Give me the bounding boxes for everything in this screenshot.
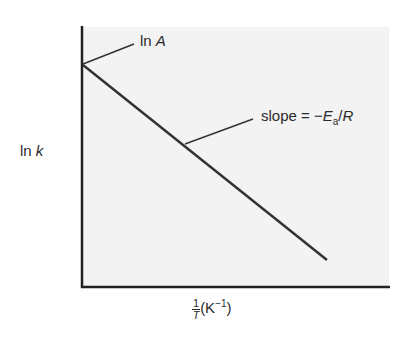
x-axis-unit: (K [200, 299, 215, 316]
intercept-label-text: ln [140, 32, 156, 49]
slope-label-var: E [323, 107, 333, 124]
arrhenius-plot [0, 0, 411, 345]
x-axis-exponent: −1 [215, 298, 226, 309]
slope-label-prefix: slope = − [261, 107, 323, 124]
x-axis-unit-close: ) [227, 299, 232, 316]
intercept-label: ln A [140, 32, 166, 49]
y-axis-label-text: ln [20, 142, 36, 159]
intercept-label-var: A [156, 32, 166, 49]
y-axis-label: ln k [20, 142, 43, 159]
fraction-denominator: T [192, 310, 200, 321]
y-axis-label-var: k [36, 142, 44, 159]
x-axis-fraction: 1T [192, 298, 200, 321]
slope-label: slope = −Ea/R [261, 107, 353, 127]
slope-label-var2: R [342, 107, 353, 124]
x-axis-label: 1T(K−1) [192, 298, 232, 321]
plot-area [82, 27, 389, 287]
